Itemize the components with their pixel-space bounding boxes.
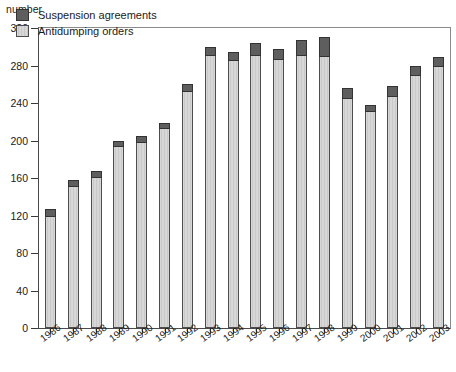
bar-segment-antidumping-orders (319, 56, 330, 328)
y-axis-tick-label: 40 (16, 285, 28, 297)
bar-segment-suspension-agreements (113, 141, 124, 148)
bar-2002 (410, 66, 421, 328)
bar-1994 (228, 52, 239, 328)
bar-segment-suspension-agreements (250, 43, 261, 56)
light-swatch-icon (16, 25, 29, 37)
y-axis-tick (31, 328, 38, 329)
bar-1986 (45, 209, 56, 328)
dark-swatch-icon (16, 9, 29, 21)
bar-1993 (205, 47, 216, 328)
bar-segment-suspension-agreements (136, 136, 147, 144)
bar-segment-antidumping-orders (68, 186, 79, 329)
y-axis-tick (31, 178, 38, 179)
bar-segment-antidumping-orders (228, 60, 239, 328)
y-axis-tick-label: 200 (10, 135, 28, 147)
y-axis-tick-label: 120 (10, 210, 28, 222)
y-axis-tick-label: 160 (10, 172, 28, 184)
bar-1995 (250, 43, 261, 328)
bar-segment-antidumping-orders (113, 146, 124, 328)
bar-segment-antidumping-orders (159, 128, 170, 328)
bar-1997 (296, 40, 307, 328)
bar-segment-antidumping-orders (342, 98, 353, 328)
bar-2001 (387, 86, 398, 328)
y-axis-tick (31, 253, 38, 254)
bar-segment-suspension-agreements (365, 105, 376, 113)
bar-segment-antidumping-orders (387, 96, 398, 328)
y-axis-tick (31, 141, 38, 142)
bar-segment-antidumping-orders (205, 55, 216, 328)
y-axis-tick-label: 0 (22, 322, 28, 334)
bar-2000 (365, 105, 376, 328)
legend-label: Suspension agreements (38, 9, 157, 21)
bar-segment-suspension-agreements (182, 84, 193, 92)
plot-area: 04080120160200240280320 (38, 27, 451, 329)
bar-segment-antidumping-orders (296, 55, 307, 328)
y-axis-tick-label: 280 (10, 60, 28, 72)
chart-figure: number 04080120160200240280320 Suspensio… (0, 0, 456, 372)
bar-segment-suspension-agreements (342, 88, 353, 99)
chart-legend: Suspension agreements Antidumping orders (16, 9, 157, 37)
bar-segment-suspension-agreements (205, 47, 216, 56)
bar-segment-antidumping-orders (250, 55, 261, 328)
bar-1999 (342, 88, 353, 328)
bar-1998 (319, 37, 330, 328)
legend-item-suspension-agreements: Suspension agreements (16, 9, 157, 21)
bar-segment-antidumping-orders (273, 59, 284, 328)
bar-segment-suspension-agreements (159, 123, 170, 130)
y-axis-tick (31, 103, 38, 104)
bar-segment-suspension-agreements (91, 171, 102, 179)
bar-1996 (273, 49, 284, 328)
y-axis-tick (31, 216, 38, 217)
bar-segment-antidumping-orders (136, 142, 147, 328)
bar-segment-antidumping-orders (365, 111, 376, 328)
bar-segment-antidumping-orders (45, 216, 56, 329)
bar-segment-antidumping-orders (410, 75, 421, 328)
bar-segment-suspension-agreements (228, 52, 239, 61)
bar-1991 (159, 123, 170, 328)
y-axis-tick (31, 291, 38, 292)
bar-segment-antidumping-orders (182, 91, 193, 328)
bar-segment-suspension-agreements (387, 86, 398, 97)
legend-label: Antidumping orders (38, 25, 133, 37)
bar-1989 (113, 141, 124, 329)
bar-segment-suspension-agreements (433, 57, 444, 66)
bar-segment-suspension-agreements (68, 180, 79, 187)
y-axis-tick-label: 80 (16, 247, 28, 259)
bar-segment-suspension-agreements (410, 66, 421, 75)
bar-1992 (182, 84, 193, 328)
bar-segment-suspension-agreements (319, 37, 330, 57)
bar-2003 (433, 57, 444, 328)
bar-segment-suspension-agreements (296, 40, 307, 56)
legend-item-antidumping-orders: Antidumping orders (16, 25, 157, 37)
bar-segment-suspension-agreements (45, 209, 56, 217)
bar-segment-antidumping-orders (433, 66, 444, 329)
bar-segment-antidumping-orders (91, 177, 102, 328)
bar-1990 (136, 136, 147, 328)
bar-segment-suspension-agreements (273, 49, 284, 60)
y-axis-tick (31, 66, 38, 67)
bar-1987 (68, 180, 79, 328)
bar-1988 (91, 171, 102, 329)
y-axis-tick-label: 240 (10, 97, 28, 109)
